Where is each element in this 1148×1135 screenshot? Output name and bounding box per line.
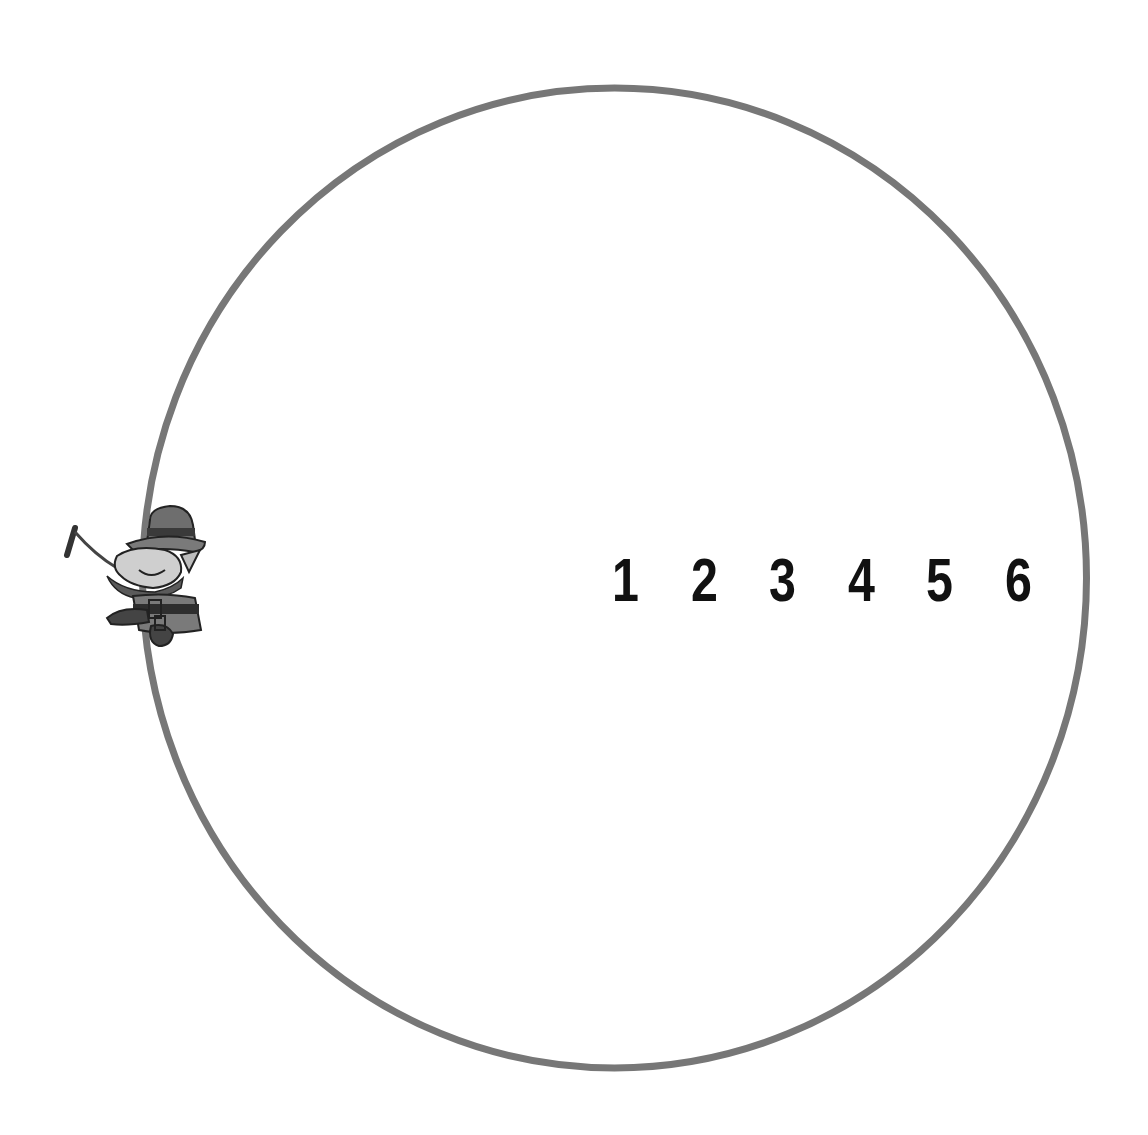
number-4: 4: [848, 548, 909, 612]
diagram-stage: 1 2 3 4 5 6: [0, 0, 1148, 1135]
number-3: 3: [769, 548, 830, 612]
number-row: 1 2 3 4 5 6: [612, 548, 1083, 612]
number-1: 1: [612, 548, 673, 612]
number-2: 2: [691, 548, 752, 612]
number-5: 5: [926, 548, 987, 612]
number-6: 6: [1005, 548, 1066, 612]
leprechaun-icon: [55, 500, 210, 650]
